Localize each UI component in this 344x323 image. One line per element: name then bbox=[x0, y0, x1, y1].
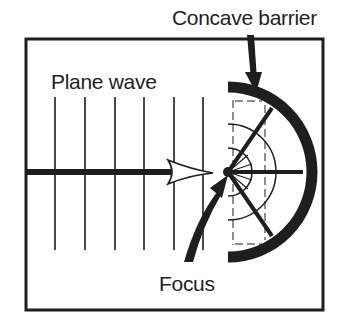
focus-label: Focus bbox=[159, 273, 215, 294]
focus-point bbox=[223, 167, 233, 177]
focus-pointer-arrow bbox=[184, 175, 228, 262]
diagram-canvas: Concave barrier Plane wave Focus bbox=[0, 0, 344, 323]
concave-barrier-label: Concave barrier bbox=[172, 7, 317, 28]
incident-ray-arrow bbox=[26, 160, 213, 184]
plane-wave-label: Plane wave bbox=[51, 71, 157, 92]
